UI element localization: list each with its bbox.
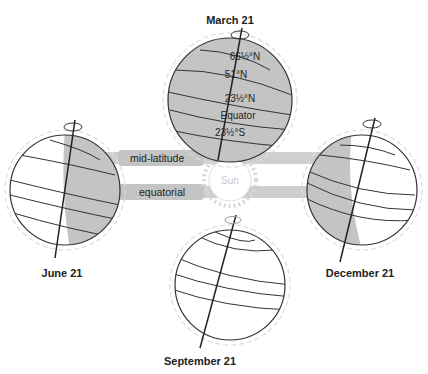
lat-51-label: 51°N <box>225 69 247 80</box>
sun-label: Sun <box>221 175 239 186</box>
seasons-diagram: mid-latitude equatorial Sun 66½°N 51°N 2… <box>0 0 428 374</box>
globe-september-21: September 21 <box>164 215 292 367</box>
globe-march-21: 66½°N 51°N 23½°N Equator 23½°S March 21 <box>163 14 297 167</box>
globe-june-21: June 21 <box>5 120 130 279</box>
september-label: September 21 <box>164 355 236 367</box>
june-label: June 21 <box>42 267 83 279</box>
march-label: March 21 <box>206 14 254 26</box>
december-label: December 21 <box>326 267 395 279</box>
lat-23s-label: 23½°S <box>215 127 245 138</box>
lat-23n-label: 23½°N <box>225 93 256 104</box>
equatorial-label: equatorial <box>139 186 185 198</box>
globe-december-21: December 21 <box>300 118 422 279</box>
lat-66-label: 66½°N <box>230 51 261 62</box>
mid-latitude-label: mid-latitude <box>130 152 184 164</box>
equator-label: Equator <box>220 110 256 121</box>
